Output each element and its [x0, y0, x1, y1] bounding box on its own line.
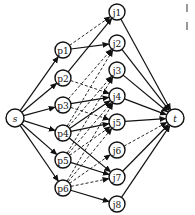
node-label: j1 [112, 8, 122, 18]
edge-s-p1 [20, 57, 58, 111]
edge-p6-j7 [71, 179, 109, 187]
node-label: j6 [112, 146, 122, 156]
node-label: s [13, 114, 18, 124]
node-s: s [6, 109, 24, 127]
edge-p6-j8 [71, 190, 109, 201]
node-label: t [173, 114, 177, 124]
edge-j8-t [121, 126, 169, 197]
edge-p5-j4 [68, 102, 111, 153]
edge-j5-t [125, 119, 166, 122]
node-j1: j1 [109, 4, 125, 20]
edge-mark-top [186, 4, 188, 12]
edge-j4-t [124, 99, 166, 115]
node-j8: j8 [109, 196, 125, 212]
node-j3: j3 [109, 62, 125, 78]
node-j4: j4 [109, 88, 125, 104]
edge-p6-j6 [70, 155, 111, 184]
edge-p4-j3 [68, 76, 111, 126]
node-t: t [166, 109, 184, 127]
node-j7: j7 [109, 169, 125, 185]
edge-s-p3 [24, 107, 55, 115]
edge-s-p5 [22, 124, 57, 154]
edge-p2-j4 [71, 81, 109, 94]
node-label: p2 [57, 74, 69, 84]
node-label: p4 [57, 129, 69, 139]
node-label: j2 [112, 39, 122, 49]
node-p1: p1 [55, 42, 71, 58]
node-p4: p4 [55, 125, 71, 141]
node-p6: p6 [55, 180, 71, 196]
edge-p1-j1 [70, 17, 111, 46]
edge-j7-t [123, 125, 169, 172]
node-j5: j5 [109, 114, 125, 130]
node-label: j3 [112, 66, 122, 76]
node-label: j7 [112, 173, 122, 183]
node-label: j8 [112, 200, 122, 210]
edge-j1-t [121, 19, 171, 110]
node-label: p5 [57, 156, 69, 166]
node-p5: p5 [55, 152, 71, 168]
node-label: p1 [57, 46, 69, 56]
flow-network-diagram: sp1p2p3p4p5p6j1j2j3j4j5j6j7j8t [0, 0, 195, 215]
node-j6: j6 [109, 142, 125, 158]
edge-mark-bottom [186, 22, 188, 30]
edge-p5-j5 [70, 127, 111, 156]
node-label: p6 [57, 184, 69, 194]
node-label: j5 [112, 118, 122, 128]
edge-p5-j7 [71, 162, 109, 174]
edge-p3-j4 [71, 97, 109, 103]
node-p3: p3 [55, 97, 71, 113]
node-p2: p2 [55, 70, 71, 86]
edge-j6-t [124, 123, 167, 147]
edge-s-p6 [20, 125, 58, 181]
node-label: j4 [112, 92, 122, 102]
node-label: p3 [57, 101, 69, 111]
nodes-layer: sp1p2p3p4p5p6j1j2j3j4j5j6j7j8t [6, 4, 184, 212]
edges-layer [20, 17, 170, 202]
edge-p4-j5 [71, 124, 109, 132]
node-j2: j2 [109, 35, 125, 51]
edge-p2-j1 [68, 19, 112, 72]
